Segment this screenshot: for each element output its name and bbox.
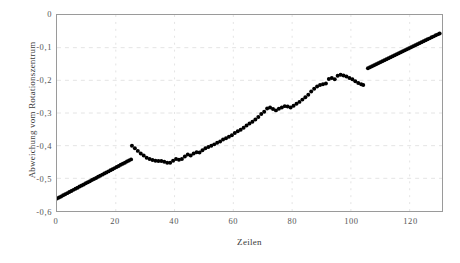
y-tick-label: -0,3 bbox=[36, 108, 52, 118]
x-tick-label: 80 bbox=[287, 216, 297, 226]
y-tick-label: -0,2 bbox=[36, 75, 52, 85]
y-tick-label: -0,1 bbox=[36, 42, 52, 52]
series-segment-3-linear bbox=[366, 32, 442, 71]
x-axis-title: Zeilen bbox=[56, 237, 443, 247]
plot-area bbox=[56, 14, 443, 212]
chart-root: Abweichung vom Rotationszentrum 0-0,1-0,… bbox=[0, 0, 460, 263]
series-segment-1-linear bbox=[57, 157, 133, 200]
y-tick-label: 0 bbox=[47, 9, 52, 19]
y-tick-label: -0,5 bbox=[36, 174, 52, 184]
series-segment-2-noisy bbox=[130, 73, 365, 165]
y-axis-tick-labels: 0-0,1-0,2-0,3-0,4-0,5-0,6 bbox=[0, 14, 52, 212]
y-tick-label: -0,4 bbox=[36, 141, 52, 151]
x-tick-label: 120 bbox=[403, 216, 418, 226]
x-tick-label: 40 bbox=[169, 216, 179, 226]
x-tick-label: 20 bbox=[110, 216, 120, 226]
x-tick-label: 60 bbox=[228, 216, 238, 226]
plot-canvas bbox=[57, 15, 442, 211]
y-tick-label: -0,6 bbox=[36, 207, 52, 217]
x-tick-label: 100 bbox=[344, 216, 359, 226]
x-tick-label: 0 bbox=[54, 216, 59, 226]
x-axis-tick-labels: 020406080100120 bbox=[56, 216, 443, 230]
